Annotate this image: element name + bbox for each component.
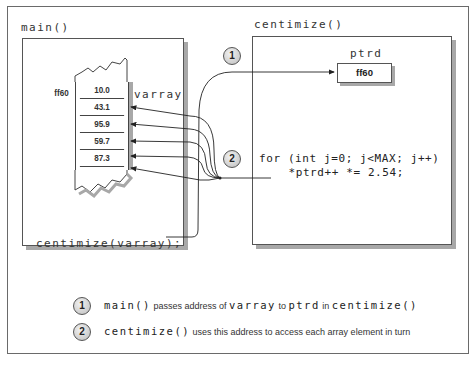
- legend-1-part-5: in: [320, 301, 332, 311]
- legend-1-part-3: to: [276, 301, 289, 311]
- legend-1-part-2: varray: [229, 299, 276, 311]
- legend-1-part-4: ptrd: [288, 299, 319, 311]
- legend-2-part-0: centimize(): [104, 325, 190, 337]
- legend-1-part-1: passes address of: [151, 301, 229, 311]
- legend-1-part-6: centimize(): [332, 299, 418, 311]
- legend-item-1: main() passes address of varray to ptrd …: [104, 299, 418, 311]
- legend-marker-2: 2: [73, 323, 91, 341]
- legend-1-part-0: main(): [104, 299, 151, 311]
- legend-item-2: centimize() uses this address to access …: [104, 325, 410, 337]
- legend-marker-1: 1: [73, 297, 91, 315]
- legend-2-part-1: uses this address to access each array e…: [190, 327, 410, 337]
